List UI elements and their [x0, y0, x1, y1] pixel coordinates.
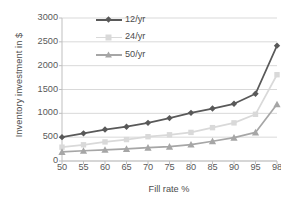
- data-point-marker: [253, 112, 258, 117]
- legend-marker-diamond-icon: [96, 14, 122, 25]
- legend-item[interactable]: 50/yr: [96, 49, 145, 60]
- chart-container: Inventory investment in $ Fill rate % 05…: [0, 0, 281, 201]
- data-point-marker: [188, 130, 193, 135]
- data-point-marker: [80, 130, 86, 136]
- data-point-marker: [274, 72, 279, 77]
- legend-label: 24/yr: [125, 32, 145, 41]
- data-point-marker: [59, 134, 65, 140]
- gridlines: [62, 18, 277, 161]
- data-point-marker: [231, 120, 236, 125]
- legend-label: 50/yr: [125, 50, 145, 59]
- data-point-marker: [102, 139, 107, 144]
- data-point-marker: [252, 91, 258, 97]
- chart-legend: 12/yr24/yr50/yr: [96, 14, 145, 60]
- axis-lines: [59, 18, 277, 164]
- data-point-marker: [274, 42, 280, 48]
- data-point-marker: [81, 142, 86, 147]
- data-point-marker: [166, 115, 172, 121]
- legend-label: 12/yr: [125, 15, 145, 24]
- data-point-marker: [102, 126, 108, 132]
- data-point-marker: [273, 101, 280, 108]
- legend-marker-triangle-icon: [96, 49, 122, 60]
- legend-square-icon: [105, 34, 112, 41]
- data-point-marker: [167, 132, 172, 137]
- legend-diamond-icon: [105, 16, 112, 23]
- data-point-marker: [145, 120, 151, 126]
- data-point-marker: [188, 110, 194, 116]
- series-50-per-yr: [58, 101, 280, 155]
- legend-triangle-icon: [105, 51, 112, 58]
- legend-item[interactable]: 12/yr: [96, 14, 145, 25]
- data-point-marker: [124, 137, 129, 142]
- series-line: [62, 46, 277, 138]
- series-24-per-yr: [59, 72, 279, 150]
- series-12-per-yr: [59, 42, 280, 140]
- data-point-marker: [231, 101, 237, 107]
- data-point-marker: [123, 123, 129, 129]
- legend-item[interactable]: 24/yr: [96, 32, 145, 43]
- legend-marker-square-icon: [96, 32, 122, 43]
- data-point-marker: [209, 105, 215, 111]
- data-series-layer: [58, 42, 280, 155]
- data-point-marker: [210, 125, 215, 130]
- data-point-marker: [145, 134, 150, 139]
